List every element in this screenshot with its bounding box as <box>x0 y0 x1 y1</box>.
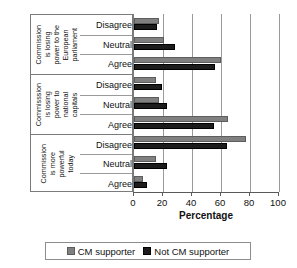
category-label: Neutral <box>80 35 132 55</box>
group-block-2: Commission is more powerful today Disagr… <box>31 134 134 193</box>
group-block-0: Commission is losing power to the Europe… <box>31 15 134 74</box>
category-label: Disagree <box>80 15 132 35</box>
x-axis-line <box>133 192 279 193</box>
bar-not-cm-supporter <box>134 182 147 188</box>
group-2-categories: Disagree Neutral Agree <box>80 135 134 193</box>
chart-legend: CM supporter Not CM supporter <box>45 242 251 260</box>
x-tick <box>249 192 250 196</box>
bar-row <box>134 54 279 74</box>
group-title-2-text: Commission is more powerful today <box>39 144 75 184</box>
group-0-categories: Disagree Neutral Agree <box>80 15 134 74</box>
category-label: Agree <box>80 55 132 75</box>
bar-cm-supporter <box>134 77 156 83</box>
bar-not-cm-supporter <box>134 123 214 129</box>
group-title-2: Commission is more powerful today <box>33 135 80 193</box>
x-tick-label: 100 <box>263 197 293 208</box>
legend-item-not-cm-supporter: Not CM supporter <box>143 246 229 257</box>
gridline <box>279 14 280 192</box>
plot-frame: Commission is losing power to the Europe… <box>30 14 278 192</box>
x-axis-title: Percentage <box>133 210 279 221</box>
x-tick-label: 80 <box>234 197 264 208</box>
bar-row <box>134 14 279 34</box>
group-block-1: Commisssion is losing power to national … <box>31 74 134 133</box>
category-label-column: Commission is losing power to the Europe… <box>30 14 133 192</box>
bar-not-cm-supporter <box>134 103 167 109</box>
x-tick-label: 60 <box>205 197 235 208</box>
legend-label: Not CM supporter <box>154 246 229 257</box>
category-label: Disagree <box>80 135 132 155</box>
bar-not-cm-supporter <box>134 84 162 90</box>
bar-not-cm-supporter <box>134 163 167 169</box>
bar-not-cm-supporter <box>134 24 157 30</box>
bar-not-cm-supporter <box>134 143 227 149</box>
category-label: Neutral <box>80 95 132 115</box>
bar-row <box>134 34 279 54</box>
bar-chart: Commission is losing power to the Europe… <box>0 0 297 268</box>
x-tick-label: 20 <box>147 197 177 208</box>
bar-cm-supporter <box>134 18 159 24</box>
bar-row <box>134 133 279 153</box>
x-tick <box>191 192 192 196</box>
category-label: Neutral <box>80 154 132 174</box>
bar-row <box>134 172 279 192</box>
bar-row <box>134 113 279 133</box>
bar-cm-supporter <box>134 156 156 162</box>
group-title-0: Commission is losing power to the Europe… <box>33 15 80 74</box>
bar-row <box>134 152 279 172</box>
category-label: Agree <box>80 115 132 135</box>
x-tick-label: 40 <box>176 197 206 208</box>
bar-not-cm-supporter <box>134 64 215 70</box>
category-label: Agree <box>80 174 132 194</box>
category-label: Disagree <box>80 75 132 95</box>
bar-cm-supporter <box>134 57 221 63</box>
group-title-1: Commisssion is losing power to national … <box>33 75 80 133</box>
bar-cm-supporter <box>134 176 143 182</box>
legend-label: CM supporter <box>78 246 136 257</box>
legend-item-cm-supporter: CM supporter <box>67 246 136 257</box>
bar-cm-supporter <box>134 116 228 122</box>
x-tick <box>162 192 163 196</box>
bar-cm-supporter <box>134 37 164 43</box>
x-tick <box>278 192 279 196</box>
bar-not-cm-supporter <box>134 44 175 50</box>
x-tick-label: 0 <box>118 197 148 208</box>
group-1-categories: Disagree Neutral Agree <box>80 75 134 133</box>
plot-area <box>133 14 278 192</box>
legend-swatch-icon <box>67 247 75 255</box>
group-title-1-text: Commisssion is losing power to national … <box>34 83 79 126</box>
bar-row <box>134 93 279 113</box>
bar-cm-supporter <box>134 136 246 142</box>
group-title-0-text: Commission is losing power to the Europe… <box>34 25 79 65</box>
legend-swatch-icon <box>143 247 151 255</box>
bar-cm-supporter <box>134 97 159 103</box>
x-tick <box>220 192 221 196</box>
bar-row <box>134 73 279 93</box>
x-tick <box>133 192 134 196</box>
